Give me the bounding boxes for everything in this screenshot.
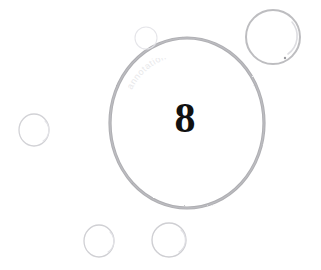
main-bubble xyxy=(110,38,264,208)
bubbles-artwork xyxy=(0,0,321,270)
image-canvas: annotation 8 xyxy=(0,0,321,270)
bottom-left-bubble xyxy=(84,225,114,257)
ink-speck xyxy=(284,57,286,59)
left-bubble xyxy=(19,114,49,146)
top-right-bubble-highlight xyxy=(288,22,297,54)
top-small-bubble xyxy=(135,27,157,49)
bottom-right-bubble xyxy=(152,223,186,257)
top-right-bubble xyxy=(246,10,300,64)
